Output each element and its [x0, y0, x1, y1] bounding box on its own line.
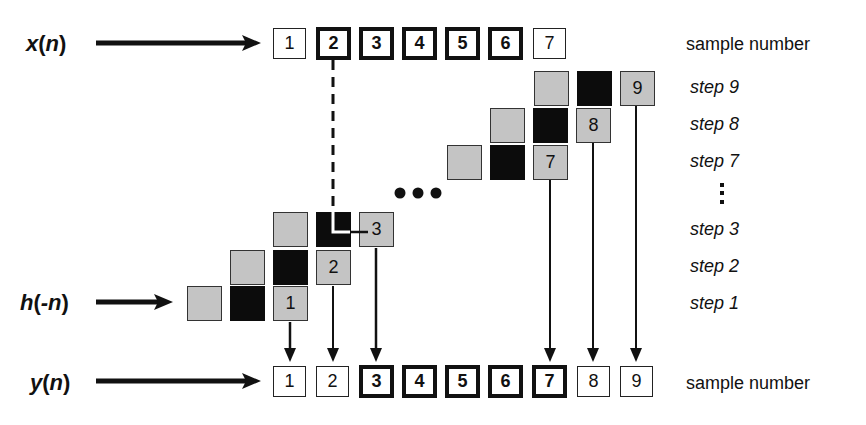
vertical-ellipsis	[0, 0, 866, 425]
step-3-label: step 3	[690, 218, 739, 240]
bottom-sample-number-label: sample number	[686, 372, 810, 394]
step-1-label: step 1	[690, 292, 739, 314]
step-2-label: step 2	[690, 255, 739, 277]
